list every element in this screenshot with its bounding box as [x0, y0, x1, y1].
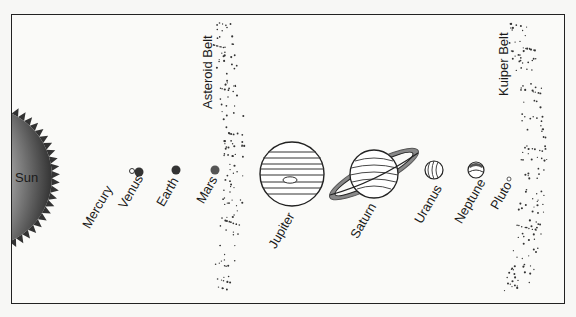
kuiper-belt-label: Kuiper Belt [496, 32, 511, 96]
solar-system-diagram: Sun Asteroid Belt Kuiper Belt Mercury Ve… [11, 14, 565, 304]
mars-icon [211, 166, 220, 175]
saturn-icon [324, 140, 424, 208]
jupiter-icon [260, 142, 324, 206]
uranus-icon [425, 161, 443, 179]
asteroid-belt-label: Asteroid Belt [200, 35, 215, 109]
diagram-graphics [12, 15, 564, 303]
sun-label: Sun [15, 170, 38, 185]
asteroid-belt-dots [213, 22, 246, 290]
earth-icon [172, 166, 181, 175]
pluto-icon [507, 177, 511, 181]
